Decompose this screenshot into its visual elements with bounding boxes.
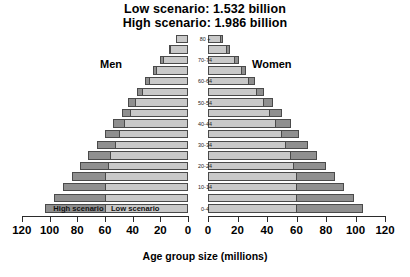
women-low-scenario-bar xyxy=(208,66,242,74)
women-low-scenario-bar xyxy=(208,172,297,180)
pyramid-row: 70-74 xyxy=(0,55,410,66)
age-group-label: 60-64 xyxy=(188,77,222,85)
x-axis-tick xyxy=(22,216,23,222)
x-axis-tick xyxy=(50,216,51,222)
men-low-scenario-bar xyxy=(142,88,188,96)
x-axis-tick-label: 100 xyxy=(341,224,371,236)
men-low-scenario-bar xyxy=(110,151,188,159)
x-axis-tick-label: 60 xyxy=(90,224,120,236)
pyramid-row: 80 + xyxy=(0,34,410,45)
pyramid-row: 50-54 xyxy=(0,98,410,109)
x-axis-tick-label: 20 xyxy=(223,224,253,236)
men-low-scenario-bar xyxy=(163,56,188,64)
pyramid-row: 40-44 xyxy=(0,119,410,130)
men-low-scenario-bar xyxy=(105,172,188,180)
age-group-label: 20-24 xyxy=(188,162,222,170)
population-pyramid-chart: Low scenario: 1.532 billion High scenari… xyxy=(0,0,410,277)
women-low-scenario-bar xyxy=(208,109,270,117)
pyramid-row: 20-24 xyxy=(0,161,410,172)
men-low-scenario-bar xyxy=(108,162,188,170)
men-low-scenario-bar xyxy=(105,194,188,202)
x-axis-tick xyxy=(238,216,239,222)
pyramid-row xyxy=(0,193,410,204)
men-low-scenario-bar xyxy=(156,66,188,74)
legend-low-scenario: Low scenario xyxy=(111,205,160,213)
age-group-label: 30-34 xyxy=(188,141,222,149)
women-low-scenario-bar xyxy=(208,151,291,159)
x-axis-tick-label: 60 xyxy=(282,224,312,236)
women-low-scenario-bar xyxy=(208,130,282,138)
age-group-label: 0-4 xyxy=(188,205,222,213)
pyramid-row: 60-64 xyxy=(0,76,410,87)
men-low-scenario-bar xyxy=(105,183,188,191)
men-low-scenario-bar xyxy=(124,119,188,127)
women-low-scenario-bar xyxy=(208,194,297,202)
x-axis-tick xyxy=(133,216,134,222)
title-high-scenario: High scenario: 1.986 billion xyxy=(0,16,410,30)
men-low-scenario-bar xyxy=(119,130,188,138)
men-low-scenario-bar xyxy=(130,109,188,117)
x-axis-tick-label: 40 xyxy=(252,224,282,236)
x-axis-tick xyxy=(267,216,268,222)
x-axis-tick-label: 0 xyxy=(193,224,223,236)
men-low-scenario-bar xyxy=(149,77,188,85)
men-low-scenario-bar xyxy=(176,35,188,43)
x-axis-tick-label: 120 xyxy=(7,224,37,236)
x-axis-tick xyxy=(326,216,327,222)
pyramid-row: 30-34 xyxy=(0,140,410,151)
x-axis-tick xyxy=(188,216,189,222)
x-axis-tick xyxy=(208,216,209,222)
age-group-label: 50-54 xyxy=(188,99,222,107)
x-axis-tick xyxy=(160,216,161,222)
age-group-label: 10-14 xyxy=(188,183,222,191)
title-low-scenario: Low scenario: 1.532 billion xyxy=(0,2,410,16)
x-axis-tick-label: 120 xyxy=(370,224,400,236)
men-low-scenario-bar xyxy=(170,45,188,53)
age-group-label: 80 + xyxy=(188,35,222,43)
pyramid-row xyxy=(0,129,410,140)
pyramid-row xyxy=(0,108,410,119)
pyramid-row xyxy=(0,66,410,77)
men-low-scenario-bar xyxy=(135,98,188,106)
x-axis-title: Age group size (millions) xyxy=(0,250,410,262)
women-low-scenario-bar xyxy=(208,45,227,53)
women-low-scenario-bar xyxy=(208,88,257,96)
age-group-label: 70-74 xyxy=(188,56,222,64)
x-axis-tick xyxy=(297,216,298,222)
men-low-scenario-bar xyxy=(115,141,188,149)
pyramid-row xyxy=(0,151,410,162)
age-group-label: 40-44 xyxy=(188,120,222,128)
pyramid-row: 10-14 xyxy=(0,182,410,193)
pyramid-row: 0-4High scenarioLow scenario xyxy=(0,204,410,215)
x-axis-tick xyxy=(385,216,386,222)
legend-high-scenario: High scenario xyxy=(53,205,103,213)
pyramid-row xyxy=(0,172,410,183)
pyramid-row xyxy=(0,87,410,98)
x-axis-tick-label: 20 xyxy=(145,224,175,236)
x-axis-tick-label: 100 xyxy=(35,224,65,236)
x-axis-tick xyxy=(356,216,357,222)
x-axis-tick-label: 40 xyxy=(118,224,148,236)
pyramid-row xyxy=(0,45,410,56)
x-axis-tick xyxy=(77,216,78,222)
chart-title: Low scenario: 1.532 billion High scenari… xyxy=(0,2,410,30)
x-axis-tick-label: 80 xyxy=(62,224,92,236)
pyramid-plot-area: 80 +70-7460-6450-5440-4430-3420-2410-140… xyxy=(0,34,410,216)
x-axis-tick-label: 80 xyxy=(311,224,341,236)
x-axis-tick xyxy=(105,216,106,222)
